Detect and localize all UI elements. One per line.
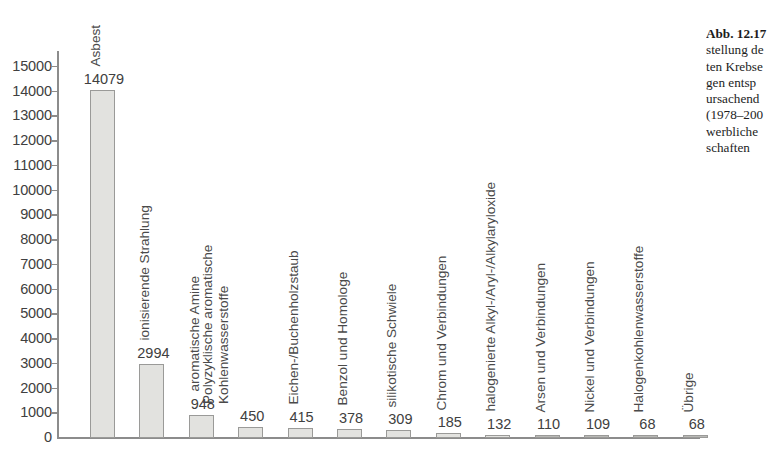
y-axis-labels: 1500014000130001200011000100009000800070… <box>0 0 52 458</box>
bar-category-label-line: Kohlenwasserstoffe <box>216 244 232 403</box>
y-tick-label: 15000 <box>0 59 52 73</box>
caption-line: schaften <box>706 140 778 156</box>
y-tick-label: 9000 <box>0 207 52 221</box>
y-tick-mark <box>51 338 58 340</box>
bar-category-label: Polyzyklische aromatischeKohlenwassersto… <box>200 244 231 403</box>
y-tick-label: 0 <box>0 430 52 444</box>
bar-group: 14079Asbest <box>81 52 131 438</box>
bar-category-label-line: Asbest <box>88 25 104 67</box>
y-tick-mark <box>51 214 58 216</box>
bar-category-label: Chrom und Verbindungen <box>433 256 449 411</box>
y-tick-mark <box>51 66 58 68</box>
bar-category-label: ionisierende Strahlung <box>137 206 153 341</box>
bar-group: 309silikotische Schwiele <box>377 52 427 438</box>
bar-group: 110Arsen und Verbindungen <box>526 52 576 438</box>
y-tick-mark <box>51 239 58 241</box>
y-tick-label: 14000 <box>0 84 52 98</box>
bar-category-label: Benzol und Homologe <box>335 272 351 406</box>
bar-category-label-line: Eichen-/Buchenholzstaub <box>285 251 301 405</box>
bar-category-label-line: Polyzyklische aromatische <box>200 244 216 403</box>
caption-line: (1978–200 <box>706 107 778 123</box>
bar-group: 415Eichen-/Buchenholzstaub <box>279 52 329 438</box>
bar-category-label-line: Halogenkohlenwasserstoffe <box>631 245 647 412</box>
bar-category-label-line: Arsen und Verbindungen <box>532 262 548 412</box>
bar[interactable] <box>436 433 461 438</box>
y-tick-label: 4000 <box>0 331 52 345</box>
bar-category-label: Halogenkohlenwasserstoffe <box>631 245 647 412</box>
bar-category-label-line: ionisierende Strahlung <box>137 206 153 341</box>
y-tick-label: 13000 <box>0 108 52 122</box>
bar[interactable] <box>189 415 214 438</box>
bar-category-label-line: Chrom und Verbindungen <box>433 256 449 411</box>
y-tick-label: 2000 <box>0 381 52 395</box>
bar-category-label: silikotische Schwiele <box>384 283 400 407</box>
y-tick-mark <box>51 388 58 390</box>
caption-line: stellung de <box>706 42 778 58</box>
y-tick-mark <box>51 289 58 291</box>
bar[interactable] <box>535 435 560 438</box>
y-tick-mark <box>51 313 58 315</box>
bar-category-label: Eichen-/Buchenholzstaub <box>285 251 301 405</box>
bar-group: 378Benzol und Homologe <box>328 52 378 438</box>
bar[interactable] <box>139 364 164 438</box>
bar-group: 68Halogenkohlenwasserstoffe <box>624 52 674 438</box>
bar-category-label-line: Nickel und Verbindungen <box>582 261 598 412</box>
y-tick-label: 1000 <box>0 405 52 419</box>
caption-line: ten Krebse <box>706 59 778 75</box>
bar[interactable] <box>90 90 115 438</box>
bar-value-label: 68 <box>668 417 726 432</box>
caption-line: werbliche <box>706 124 778 140</box>
bar-category-label: halogenierte Alkyl-/Aryl-/Alkylaryloxide <box>483 182 499 412</box>
figure-container: 1500014000130001200011000100009000800070… <box>0 0 778 458</box>
bar-group: 185Chrom und Verbindungen <box>427 52 477 438</box>
figure-caption: Abb. 12.17stellung deten Krebsegen entsp… <box>706 26 778 156</box>
y-tick-mark <box>51 412 58 414</box>
bar[interactable] <box>633 435 658 438</box>
bar[interactable] <box>683 435 708 438</box>
y-tick-label: 3000 <box>0 356 52 370</box>
y-tick-mark <box>51 190 58 192</box>
y-tick-mark <box>51 165 58 167</box>
bar-chart: 1500014000130001200011000100009000800070… <box>0 0 700 458</box>
bar-category-label-line: silikotische Schwiele <box>384 283 400 407</box>
y-tick-label: 8000 <box>0 232 52 246</box>
caption-line: gen entsp <box>706 75 778 91</box>
bar-category-label: Übrige <box>680 372 696 412</box>
bar[interactable] <box>288 428 313 438</box>
bar[interactable] <box>584 435 609 438</box>
caption-line: ursachend <box>706 91 778 107</box>
bar-group: 132halogenierte Alkyl-/Aryl-/Alkylarylox… <box>476 52 526 438</box>
bar[interactable] <box>238 427 263 438</box>
y-tick-label: 6000 <box>0 282 52 296</box>
bar-group: 109Nickel und Verbindungen <box>575 52 625 438</box>
y-tick-mark <box>51 91 58 93</box>
plot-area: 14079Asbest2994ionisierende Strahlung948… <box>58 51 700 438</box>
y-tick-label: 7000 <box>0 257 52 271</box>
bar[interactable] <box>485 435 510 438</box>
bar-category-label: Asbest <box>88 25 104 67</box>
y-tick-mark <box>51 363 58 365</box>
bar[interactable] <box>386 430 411 438</box>
y-tick-mark <box>51 115 58 117</box>
bar-group: 2994ionisierende Strahlung <box>130 52 180 438</box>
y-tick-mark <box>51 264 58 266</box>
bar-value-label: 2994 <box>124 346 182 361</box>
y-tick-label: 12000 <box>0 133 52 147</box>
bar[interactable] <box>337 429 362 438</box>
bar-category-label-line: Übrige <box>680 372 696 412</box>
bar-value-label: 14079 <box>75 72 133 87</box>
bar-category-label-line: Benzol und Homologe <box>335 272 351 406</box>
bar-category-label-line: halogenierte Alkyl-/Aryl-/Alkylaryloxide <box>483 182 499 412</box>
y-tick-label: 11000 <box>0 158 52 172</box>
bar-category-label: Nickel und Verbindungen <box>582 261 598 412</box>
y-tick-mark <box>51 140 58 142</box>
bar-category-label: Arsen und Verbindungen <box>532 262 548 412</box>
bar-group: 450Polyzyklische aromatischeKohlenwasser… <box>229 52 279 438</box>
y-tick-label: 10000 <box>0 183 52 197</box>
caption-line: Abb. 12.17 <box>706 26 778 42</box>
y-tick-label: 5000 <box>0 306 52 320</box>
